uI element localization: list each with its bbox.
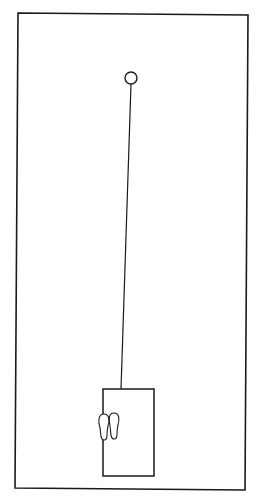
diagram-canvas <box>0 0 260 504</box>
top-circle <box>125 72 137 84</box>
